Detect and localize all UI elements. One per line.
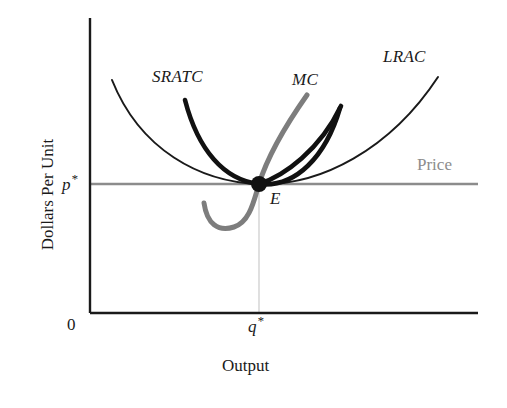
- p-star-asterisk: *: [71, 171, 78, 186]
- curve-lrac: [112, 77, 438, 184]
- p-star-base: p: [62, 175, 71, 194]
- equilibrium-label: E: [270, 190, 280, 207]
- y-axis-tick-p-star: p*: [62, 172, 78, 193]
- x-axis-title: Output: [222, 357, 269, 374]
- origin-label: 0: [67, 316, 76, 333]
- curve-label-lrac: LRAC: [383, 48, 426, 65]
- plot-canvas: [0, 0, 507, 408]
- equilibrium-point-dot: [251, 176, 267, 192]
- curve-label-mc: MC: [292, 71, 318, 88]
- cost-curve-figure: SRATC MC LRAC Price E p* q* 0 Output Dol…: [0, 0, 507, 408]
- price-line-label: Price: [417, 156, 452, 173]
- y-axis-title: Dollars Per Unit: [39, 115, 56, 275]
- curve-mc-gray: [204, 95, 307, 228]
- q-star-base: q: [248, 317, 257, 336]
- q-star-asterisk: *: [257, 313, 264, 328]
- curve-label-sratc: SRATC: [152, 68, 203, 85]
- x-axis-tick-q-star: q*: [248, 314, 264, 335]
